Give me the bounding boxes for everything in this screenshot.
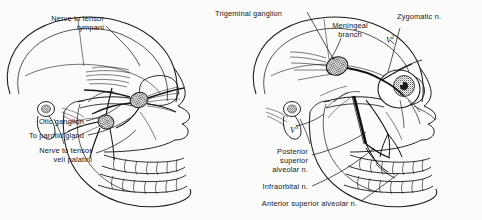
eyeball bbox=[378, 70, 420, 108]
label-trigeminal-ganglion: Trigeminal ganglion bbox=[215, 9, 307, 18]
marker-v3: V3 bbox=[290, 124, 298, 135]
label-nerve-to-tensor-tympani: Nerve to tensortympani bbox=[22, 14, 104, 32]
label-anterior-superior-alveolar-nerve: Anterior superior alveolar n. bbox=[231, 199, 357, 208]
right-leader-lines bbox=[296, 12, 400, 201]
label-posterior-superior-alveolar-nerve: Posteriorsuperioralveolar n. bbox=[258, 147, 308, 175]
left-skull-drawing bbox=[7, 17, 190, 207]
label-infraorbital-nerve: Infraorbital n. bbox=[247, 182, 308, 191]
anatomical-figure: Nerve to tensortympani Otic ganglion To … bbox=[0, 0, 482, 220]
label-zygomatic-nerve: Zygomatic n. bbox=[397, 12, 463, 21]
marker-v2: V2 bbox=[386, 34, 394, 45]
left-leader-lines bbox=[86, 26, 140, 153]
right-skull-drawing bbox=[253, 12, 436, 207]
label-otic-ganglion: Otic ganglion bbox=[12, 117, 84, 126]
label-to-parotid-gland: To parotid gland bbox=[6, 131, 84, 140]
figure-line-art bbox=[0, 0, 482, 220]
label-nerve-to-tensor-veli-palatini: Nerve to tensorveli palatini bbox=[14, 146, 92, 164]
label-meningeal-branch: Meningealbranch bbox=[325, 21, 375, 39]
